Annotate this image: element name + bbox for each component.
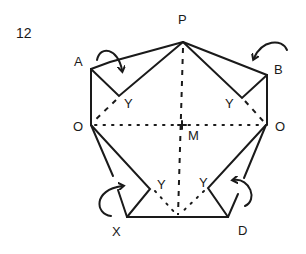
label-o-right: O [275, 119, 285, 134]
crease-y-bottom-left [155, 191, 176, 214]
edge-a-p [91, 42, 183, 69]
vertical-crease [178, 48, 183, 215]
folding-diagram: 12 [0, 0, 306, 254]
label-p: P [178, 12, 187, 27]
crease-y-o-right [245, 101, 264, 122]
crease-y-bottom-right [180, 191, 204, 214]
label-a: A [74, 54, 83, 69]
label-y-lower-right: Y [199, 175, 208, 190]
label-o-left: O [73, 119, 83, 134]
edge-o-x-outer [91, 125, 113, 176]
arrow-fold-a-icon [97, 51, 122, 70]
label-x: X [112, 224, 121, 239]
flap-right-bottom [208, 125, 266, 217]
label-b: B [274, 62, 283, 77]
edge-o-d-outer [244, 125, 266, 178]
label-m: M [188, 128, 199, 143]
label-d: D [238, 223, 247, 238]
label-y-upper-right: Y [225, 96, 234, 111]
step-number: 12 [16, 25, 32, 41]
arrow-fold-b-icon [254, 42, 287, 58]
edge-o-d-outer2 [228, 194, 238, 217]
crease-y-o-left [93, 100, 116, 122]
outline [91, 42, 267, 217]
label-y-lower-left: Y [157, 177, 166, 192]
label-y-upper-left: Y [124, 96, 133, 111]
edge-o-x-outer2 [118, 190, 127, 217]
arrow-fold-d-icon [234, 180, 251, 206]
